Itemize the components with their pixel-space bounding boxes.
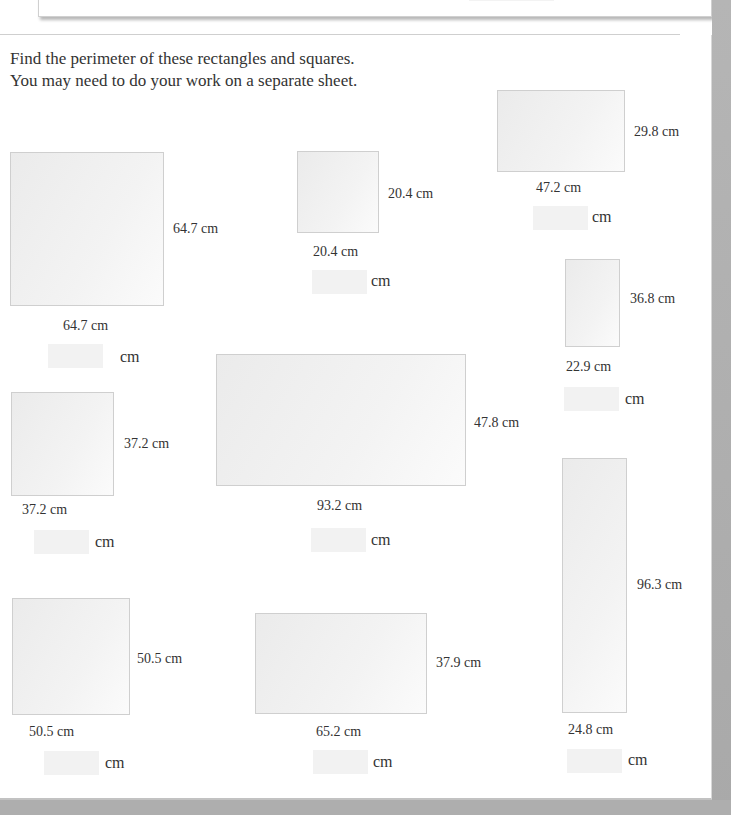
shape-f-answer-unit: cm (95, 533, 115, 551)
decorative-side-strip (712, 0, 731, 815)
shape-a-answer-unit: cm (120, 348, 140, 366)
square-f (11, 392, 114, 496)
instruction-line-2: You may need to do your work on a separa… (10, 70, 357, 92)
shape-i-answer-box[interactable] (313, 750, 368, 774)
shape-a-height-label: 64.7 cm (173, 221, 218, 237)
shape-d-width-label: 22.9 cm (566, 359, 611, 375)
shape-g-width-label: 24.8 cm (568, 722, 613, 738)
shape-h-width-label: 50.5 cm (29, 724, 74, 740)
shape-i-width-label: 65.2 cm (316, 724, 361, 740)
shape-b-answer-box[interactable] (312, 270, 367, 294)
shape-g-answer-unit: cm (628, 751, 648, 769)
square-a (10, 152, 164, 306)
square-b (297, 151, 379, 233)
shape-c-answer-unit: cm (592, 208, 612, 226)
rectangle-e (216, 354, 466, 486)
rectangle-i (255, 613, 427, 714)
previous-exercise-box (38, 0, 712, 17)
shape-g-answer-box[interactable] (567, 749, 622, 773)
shape-e-width-label: 93.2 cm (317, 498, 362, 514)
shape-f-height-label: 37.2 cm (124, 436, 169, 452)
rectangle-g (562, 458, 627, 713)
shape-e-answer-box[interactable] (311, 528, 366, 552)
shape-h-height-label: 50.5 cm (137, 651, 182, 667)
shape-i-answer-unit: cm (373, 753, 393, 771)
shape-f-width-label: 37.2 cm (22, 502, 67, 518)
shape-b-answer-unit: cm (371, 272, 391, 290)
shape-f-answer-box[interactable] (34, 530, 89, 554)
square-h (12, 598, 130, 715)
rectangle-d (565, 259, 620, 347)
rectangle-c (497, 90, 625, 172)
shape-d-height-label: 36.8 cm (630, 291, 675, 307)
shape-i-height-label: 37.9 cm (436, 655, 481, 671)
shape-c-answer-box[interactable] (533, 206, 588, 230)
shape-a-answer-box[interactable] (48, 344, 103, 368)
instruction-line-1: Find the perimeter of these rectangles a… (10, 48, 357, 70)
shape-h-answer-box[interactable] (44, 751, 99, 775)
instructions: Find the perimeter of these rectangles a… (10, 48, 357, 92)
decorative-bottom-strip (0, 800, 731, 815)
shape-a-width-label: 64.7 cm (63, 318, 108, 334)
shape-c-height-label: 29.8 cm (634, 124, 679, 140)
shape-b-height-label: 20.4 cm (388, 186, 433, 202)
shape-d-answer-unit: cm (625, 390, 645, 408)
shape-e-answer-unit: cm (371, 531, 391, 549)
shape-g-height-label: 96.3 cm (637, 577, 682, 593)
shape-b-width-label: 20.4 cm (313, 244, 358, 260)
shape-h-answer-unit: cm (105, 754, 125, 772)
previous-answer-box[interactable] (469, 0, 554, 1)
shape-d-answer-box[interactable] (564, 387, 619, 411)
shape-e-height-label: 47.8 cm (474, 415, 519, 431)
shape-c-width-label: 47.2 cm (536, 180, 581, 196)
